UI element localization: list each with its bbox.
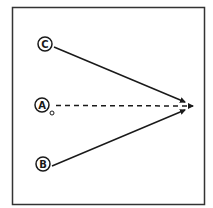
edge-a-dashed-arrow — [56, 106, 193, 107]
node-c-label: C — [41, 39, 48, 50]
diagram-canvas: C A B — [0, 0, 213, 208]
edge-b-arrow — [52, 110, 185, 166]
node-a-small-circle-icon — [50, 111, 54, 115]
node-b-label: B — [39, 159, 47, 170]
node-b: B — [36, 157, 50, 171]
edge-c-arrow — [54, 47, 185, 102]
node-a-label: A — [38, 100, 46, 111]
node-a: A — [35, 98, 54, 115]
node-c: C — [38, 37, 52, 51]
